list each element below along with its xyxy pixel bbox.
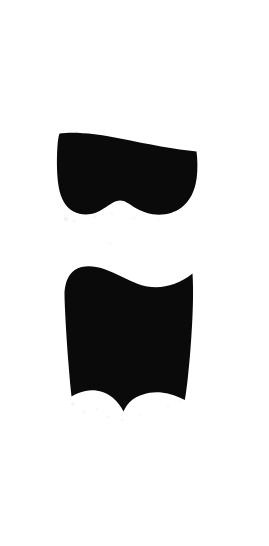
scan-speckle (93, 214, 97, 218)
silhouette-figure (0, 0, 269, 546)
scan-speckle (64, 217, 68, 221)
lower-silhouette (65, 266, 194, 411)
scan-speckle (167, 405, 170, 408)
scan-speckle (157, 219, 160, 222)
scan-speckle (72, 219, 75, 222)
image-canvas: Two black silhouette shapes on white bac… (0, 0, 269, 546)
scan-speckle (106, 415, 109, 418)
scan-speckle (96, 408, 99, 411)
scan-speckle (71, 402, 75, 406)
scan-speckle (133, 217, 136, 220)
scan-speckle (179, 401, 181, 403)
scan-speckle (121, 419, 124, 422)
background-rect (0, 0, 269, 546)
scan-speckle (111, 213, 114, 216)
scan-speckle (87, 258, 90, 261)
scan-speckle (127, 250, 129, 252)
scan-speckle (108, 241, 111, 244)
scan-speckle (139, 413, 142, 416)
scan-speckle (82, 410, 85, 413)
